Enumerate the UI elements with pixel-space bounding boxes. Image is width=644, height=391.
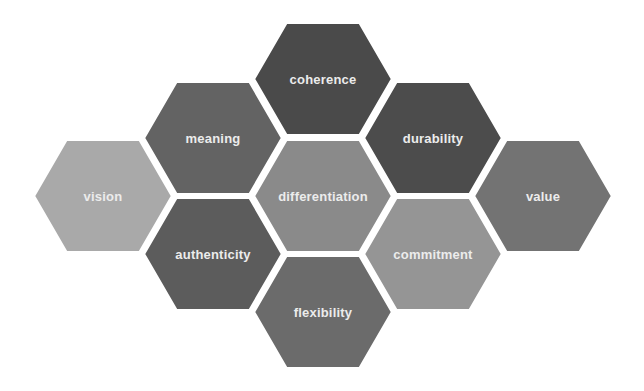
hexagon-diagram: coherence meaning durability vision diff…	[0, 0, 644, 391]
hex-label-coherence: coherence	[290, 72, 357, 87]
hex-label-flexibility: flexibility	[294, 305, 353, 320]
hex-label-durability: durability	[403, 131, 464, 146]
hex-label-authenticity: authenticity	[175, 247, 251, 262]
hex-label-value: value	[526, 189, 560, 204]
hex-label-differentiation: differentiation	[278, 189, 368, 204]
hex-label-meaning: meaning	[186, 131, 241, 146]
hex-label-vision: vision	[84, 189, 123, 204]
hex-cell-flexibility: flexibility	[253, 255, 393, 369]
hex-label-commitment: commitment	[393, 247, 473, 262]
